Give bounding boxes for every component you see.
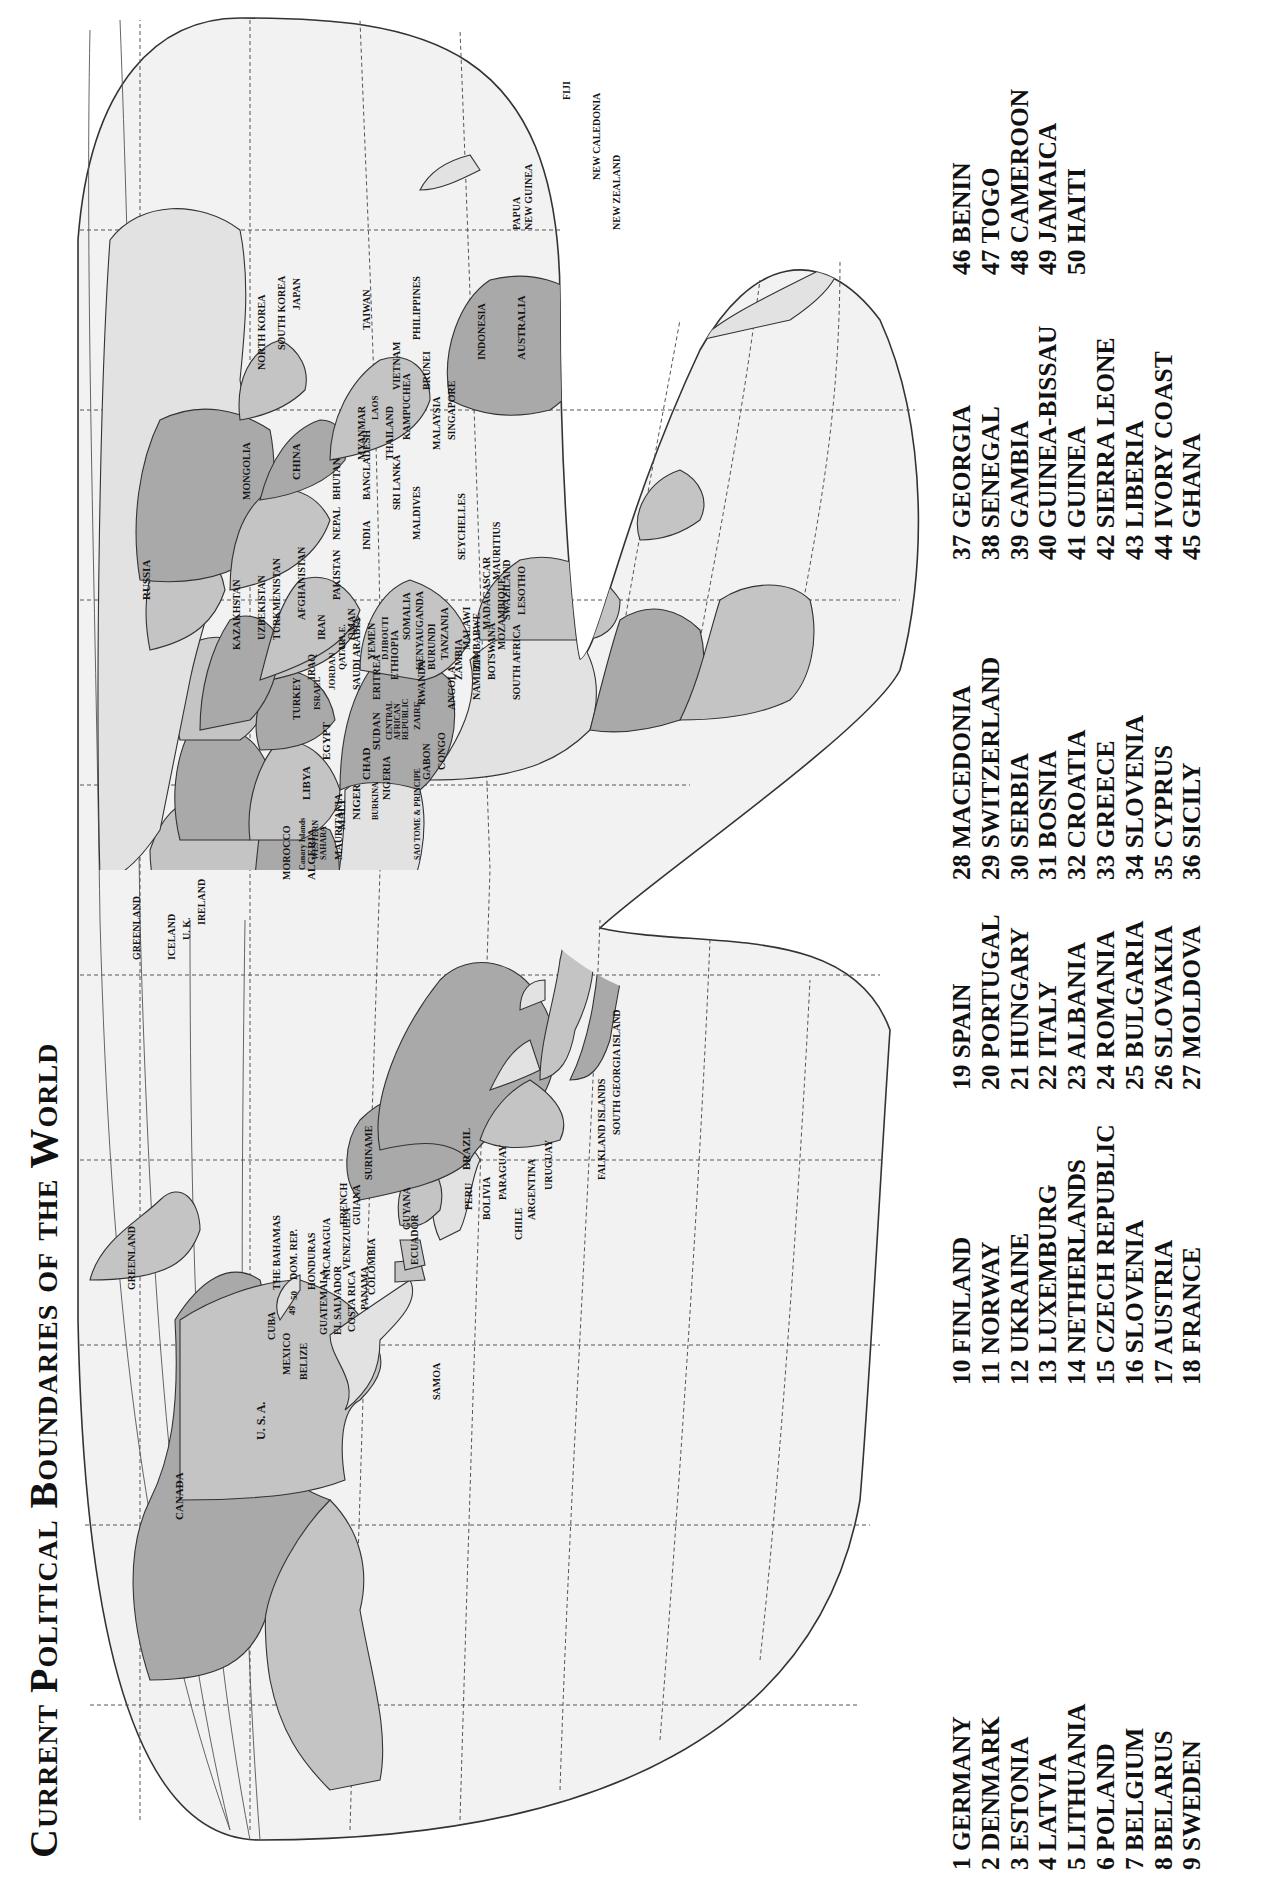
label-greenland-west: GREENLAND <box>126 1226 137 1290</box>
legend-item: 47 TOGO <box>977 89 1006 275</box>
label-australia: AUSTRALIA <box>515 295 527 360</box>
label-costa-rica: COSTA RICA <box>346 1270 357 1332</box>
label-burundi: BURUNDI <box>426 623 437 670</box>
label-guyana: GUYANA <box>401 1186 412 1230</box>
legend-item: 24 ROMANIA <box>1092 915 1121 1091</box>
label-libya: LIBYA <box>300 766 312 800</box>
legend-item: 11 NORWAY <box>977 1124 1006 1385</box>
legend-column-2: 10 FINLAND 11 NORWAY 12 UKRAINE 13 LUXEM… <box>948 1124 1207 1385</box>
label-brazil: BRAZIL <box>460 1128 472 1170</box>
legend-item: 8 BELARUS <box>1150 1704 1179 1871</box>
label-congo: CONGO <box>436 732 447 770</box>
label-new-caledonia: NEW CALEDONIA <box>591 92 602 180</box>
legend-item: 19 SPAIN <box>948 915 977 1091</box>
label-kenya: KENYA <box>414 634 425 670</box>
label-french-guiana-2: GUIANA <box>351 1184 362 1225</box>
legend-item: 26 SLOVAKIA <box>1150 915 1179 1091</box>
label-falkland: FALKLAND ISLANDS <box>596 1078 607 1180</box>
label-dom-rep: DOM. REP. <box>288 1228 299 1280</box>
label-mexico: MEXICO <box>281 1333 292 1375</box>
label-zaire: ZAIRE <box>412 701 422 730</box>
label-china: CHINA <box>290 443 302 480</box>
legend-column-1: 1 GERMANY 2 DENMARK 3 ESTONIA 4 LATVIA 5… <box>948 1704 1207 1871</box>
label-suriname: SURINAME <box>363 1125 374 1180</box>
label-bhutan: BHUTAN <box>331 457 342 500</box>
label-gabon: GABON <box>421 743 432 780</box>
legend-item: 18 FRANCE <box>1178 1124 1207 1385</box>
label-north-korea: NORTH KOREA <box>256 294 267 370</box>
map-page: Current Political Boundaries of the Worl… <box>0 0 1262 1880</box>
legend-item: 42 SIERRA LEONE <box>1092 325 1121 560</box>
legend-item: 48 CAMEROON <box>1006 89 1035 275</box>
legend-item: 10 FINLAND <box>948 1124 977 1385</box>
label-ethiopia: ETHIOPIA <box>389 629 400 680</box>
label-nepal: NEPAL <box>331 507 342 540</box>
label-egypt: EGYPT <box>320 721 332 760</box>
label-iran: IRAN <box>316 614 327 640</box>
legend-item: 27 MOLDOVA <box>1178 915 1207 1091</box>
label-somalia: SOMALIA <box>401 591 412 640</box>
label-russia: RUSSIA <box>140 560 152 600</box>
label-oman: OMAN <box>346 608 357 640</box>
legend-item: 32 CROATIA <box>1063 657 1092 880</box>
label-el-salvador: EL SALVADOR <box>332 1265 343 1335</box>
legend-column-4: 28 MACEDONIA 29 SWITZERLAND 30 SERBIA 31… <box>948 657 1207 880</box>
legend-item: 17 AUSTRIA <box>1150 1124 1179 1385</box>
label-malawi: MALAWI <box>461 607 472 650</box>
legend-item: 4 LATVIA <box>1034 1704 1063 1871</box>
legend-item: 25 BULGARIA <box>1121 915 1150 1091</box>
legend-item: 14 NETHERLANDS <box>1063 1124 1092 1385</box>
label-paraguay: PARAGUAY <box>497 1144 508 1200</box>
label-kampuchea: KAMPUCHEA <box>401 373 412 440</box>
label-chad: CHAD <box>360 748 372 780</box>
legend-item: 16 SLOVENIA <box>1121 1124 1150 1385</box>
label-50: 50 <box>289 1291 299 1301</box>
legend-item: 1 GERMANY <box>948 1704 977 1871</box>
label-japan: JAPAN <box>291 277 302 310</box>
legend-item: 3 ESTONIA <box>1006 1704 1035 1871</box>
label-greenland-east: GREENLAND <box>131 896 142 960</box>
legend-item: 36 SICILY <box>1178 657 1207 880</box>
label-samoa: SAMOA <box>431 1362 442 1400</box>
label-bolivia: BOLIVIA <box>481 1176 492 1220</box>
label-south-africa: SOUTH AFRICA <box>511 623 522 700</box>
label-french-guiana-1: FRENCH <box>338 1183 349 1225</box>
legend-item: 2 DENMARK <box>977 1704 1006 1871</box>
label-uzbekistan: UZBEKISTAN <box>256 574 267 640</box>
legend-item: 15 CZECH REPUBLIC <box>1092 1124 1121 1385</box>
label-burkina: BURKINA <box>371 782 380 820</box>
label-ireland: IRELAND <box>196 879 207 925</box>
label-philippines: PHILIPPINES <box>411 276 422 340</box>
label-mali: MALI <box>335 800 347 830</box>
legend-item: 45 GHANA <box>1178 325 1207 560</box>
legend-item: 23 ALBANIA <box>1063 915 1092 1091</box>
legend-column-6: 46 BENIN 47 TOGO 48 CAMEROON 49 JAMAICA … <box>948 89 1092 275</box>
label-peru: PERU <box>463 1183 474 1210</box>
label-afghanistan: AFGHANISTAN <box>296 546 307 620</box>
legend-item: 40 GUINEA-BISSAU <box>1034 325 1063 560</box>
label-chile: CHILE <box>513 1207 524 1240</box>
label-colombia: COLOMBIA <box>366 1238 377 1295</box>
legend-item: 43 LIBERIA <box>1121 325 1150 560</box>
label-malaysia: MALAYSIA <box>431 396 442 450</box>
legend-item: 37 GEORGIA <box>948 325 977 560</box>
label-sri-lanka: SRI LANKA <box>391 454 402 510</box>
legend-item: 44 IVORY COAST <box>1150 325 1179 560</box>
label-iraq: IRAQ <box>306 654 317 680</box>
legend-item: 31 BOSNIA <box>1034 657 1063 880</box>
label-israel: ISRAEL <box>312 676 322 710</box>
label-taiwan: TAIWAN <box>361 289 372 330</box>
legend-item: 33 GREECE <box>1092 657 1121 880</box>
legend-item: 39 GAMBIA <box>1006 325 1035 560</box>
label-png-1: PAPUA <box>511 196 522 230</box>
label-qatar: QATAR <box>337 638 347 670</box>
label-pakistan: PAKISTAN <box>331 549 342 600</box>
label-eritrea: ERITREA <box>371 654 382 700</box>
label-brunei: BRUNEI <box>421 351 432 390</box>
label-lesotho: LESOTHO <box>516 566 527 615</box>
label-mongolia: MONGOLIA <box>241 441 252 500</box>
label-swaziland: SWAZILAND <box>501 559 512 620</box>
legend-item: 28 MACEDONIA <box>948 657 977 880</box>
label-sudan: SUDAN <box>370 712 382 750</box>
label-myanmar: MYANMAR <box>356 405 367 460</box>
